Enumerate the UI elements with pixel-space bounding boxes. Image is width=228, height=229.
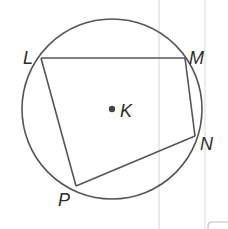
inscribed-quadrilateral-diagram: L M N P K [0, 0, 228, 229]
label-l: L [23, 48, 33, 68]
label-n: N [200, 134, 214, 154]
label-k: K [120, 101, 133, 121]
label-m: M [189, 48, 204, 68]
corner-box-fragment [208, 222, 228, 229]
center-point-k [109, 106, 115, 112]
segment-np [76, 136, 195, 186]
label-p: P [58, 190, 70, 210]
segment-pl [41, 58, 76, 186]
